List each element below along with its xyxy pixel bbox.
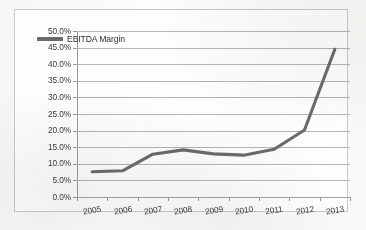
y-axis-label: 35.0%	[25, 75, 71, 85]
x-axis-label-2013: 2013	[325, 204, 344, 217]
y-axis-label: 0.0%	[25, 192, 71, 202]
x-tick	[259, 197, 260, 201]
x-axis-label-2011: 2011	[265, 204, 284, 217]
x-axis-label-2010: 2010	[234, 204, 253, 217]
y-axis-label: 5.0%	[25, 175, 71, 185]
gridline-0.0%	[77, 197, 350, 198]
x-tick	[77, 197, 78, 201]
x-tick	[289, 197, 290, 201]
x-axis-label-2005: 2005	[82, 204, 101, 217]
y-axis-label: 30.0%	[25, 92, 71, 102]
y-axis-label: 20.0%	[25, 125, 71, 135]
x-tick	[107, 197, 108, 201]
ebitda-margin-line-chart: 0.0%5.0%10.0%15.0%20.0%25.0%30.0%35.0%40…	[0, 0, 366, 230]
x-axis-label-2012: 2012	[295, 204, 314, 217]
y-axis-label: 10.0%	[25, 158, 71, 168]
x-axis-label-2008: 2008	[173, 204, 192, 217]
x-tick	[138, 197, 139, 201]
x-tick	[198, 197, 199, 201]
y-axis-label: 15.0%	[25, 142, 71, 152]
plot-area: 0.0%5.0%10.0%15.0%20.0%25.0%30.0%35.0%40…	[77, 31, 350, 197]
x-axis-label-2009: 2009	[204, 204, 223, 217]
chart-border-frame: 0.0%5.0%10.0%15.0%20.0%25.0%30.0%35.0%40…	[14, 9, 348, 212]
legend-label-ebitda-margin: EBITDA Margin	[67, 34, 125, 44]
chart-legend: EBITDA Margin	[37, 34, 125, 44]
x-axis-label-2007: 2007	[143, 204, 162, 217]
y-axis-label: 40.0%	[25, 59, 71, 69]
y-axis-label: 25.0%	[25, 109, 71, 119]
x-tick	[229, 197, 230, 201]
x-tick	[350, 197, 351, 201]
x-tick	[320, 197, 321, 201]
x-tick	[168, 197, 169, 201]
x-axis-label-2006: 2006	[113, 204, 132, 217]
series-ebitda-margin	[77, 31, 350, 197]
legend-swatch-ebitda-margin	[37, 37, 63, 41]
